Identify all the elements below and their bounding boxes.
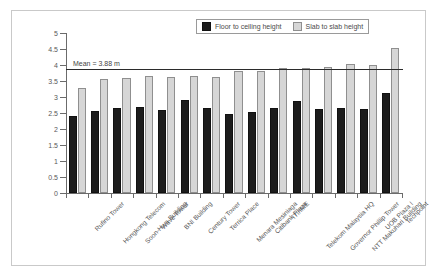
bar-group (156, 33, 178, 193)
legend-swatch-icon (202, 22, 211, 31)
bar (113, 108, 121, 193)
bar-group (380, 33, 402, 193)
bar (122, 78, 130, 193)
bar (136, 107, 144, 193)
bar (293, 101, 301, 193)
x-axis-line (66, 193, 403, 194)
bar (212, 77, 220, 193)
x-axis-tick (88, 194, 89, 198)
legend-entry-slab-to-slab: Slab to slab height (293, 22, 364, 31)
bar (248, 112, 256, 193)
bar (91, 111, 99, 193)
bar (225, 114, 233, 193)
legend-label: Slab to slab height (306, 23, 364, 31)
bar (346, 64, 354, 193)
bar-group (111, 33, 133, 193)
bar (234, 71, 242, 193)
bar-group (245, 33, 267, 193)
bar-group (312, 33, 334, 193)
mean-line-label: Mean = 3.88 m (72, 60, 121, 68)
bar (203, 108, 211, 193)
bar (270, 108, 278, 193)
y-axis-tick-label: 5 (0, 30, 67, 37)
chart-figure: Height (m) 00.511.522.533.544.55 Mean = … (0, 0, 437, 276)
bar-group (223, 33, 245, 193)
bar (302, 68, 310, 193)
x-axis-tick (268, 194, 269, 198)
x-axis-tick (200, 194, 201, 198)
chart-legend: Floor to ceiling height Slab to slab hei… (196, 19, 369, 34)
bar-group (335, 33, 357, 193)
x-axis-tick (178, 194, 179, 198)
y-axis-tick-label: 3 (0, 94, 67, 101)
bar (167, 77, 175, 193)
bar (69, 116, 77, 193)
y-axis-tick-label: 4.5 (0, 46, 67, 53)
x-axis-tick (357, 194, 358, 198)
bar-group (88, 33, 110, 193)
bar-group (178, 33, 200, 193)
bar (78, 88, 86, 193)
x-axis-tick (290, 194, 291, 198)
plot-area (66, 33, 402, 193)
bar (315, 109, 323, 193)
bar-group (268, 33, 290, 193)
bar (324, 67, 332, 193)
y-axis-tick-label: 2 (0, 126, 67, 133)
x-axis-tick (156, 194, 157, 198)
legend-swatch-icon (293, 22, 302, 31)
bar-group (290, 33, 312, 193)
bar (100, 79, 108, 193)
legend-label: Floor to ceiling height (215, 23, 282, 31)
x-axis-tick (223, 194, 224, 198)
bar (369, 65, 377, 193)
y-axis-tick-label: 0.5 (0, 174, 67, 181)
bar (145, 76, 153, 193)
y-axis-tick-label: 2.5 (0, 110, 67, 117)
bar (382, 93, 390, 193)
y-axis-tick-label: 4 (0, 62, 67, 69)
legend-entry-floor-to-ceiling: Floor to ceiling height (202, 22, 282, 31)
bar (158, 110, 166, 193)
bar (181, 100, 189, 193)
bar-group (200, 33, 222, 193)
x-axis-tick (380, 194, 381, 198)
y-axis-tick-label: 1.5 (0, 142, 67, 149)
x-axis-tick (66, 194, 67, 198)
bar (279, 68, 287, 193)
y-axis-tick-label: 1 (0, 158, 67, 165)
x-axis-tick (133, 194, 134, 198)
bar-group (357, 33, 379, 193)
x-axis-tick (245, 194, 246, 198)
x-axis-tick (335, 194, 336, 198)
x-axis-tick (402, 194, 403, 198)
bar (391, 48, 399, 193)
x-axis-tick (111, 194, 112, 198)
bar-group (66, 33, 88, 193)
bar (337, 108, 345, 193)
mean-line (66, 69, 403, 70)
y-axis-tick-label: 3.5 (0, 78, 67, 85)
bar (257, 71, 265, 193)
bar (190, 76, 198, 193)
bar-group (133, 33, 155, 193)
y-axis-tick-label: 0 (0, 190, 67, 197)
bar (360, 109, 368, 193)
x-axis-tick (312, 194, 313, 198)
